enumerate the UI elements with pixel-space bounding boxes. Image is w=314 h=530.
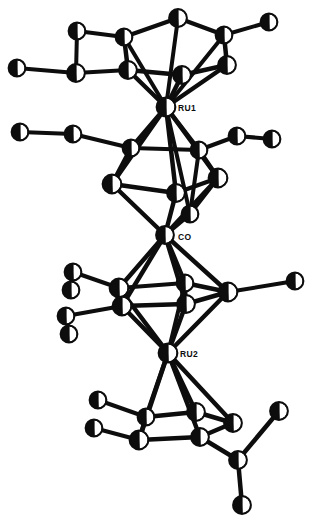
atom <box>182 206 199 223</box>
atom <box>224 414 242 432</box>
atom <box>12 124 29 141</box>
atom <box>103 175 122 194</box>
metal-atom <box>156 226 174 244</box>
atom <box>9 60 26 77</box>
atom <box>90 392 107 409</box>
atom <box>209 169 228 188</box>
atom <box>219 283 238 302</box>
atom <box>191 428 209 446</box>
atom <box>65 126 82 143</box>
atom <box>264 131 281 148</box>
atom <box>216 27 233 44</box>
atom <box>58 308 75 325</box>
atom <box>229 128 246 145</box>
atom <box>167 184 185 202</box>
atom <box>177 275 194 292</box>
ortep-diagram-canvas: RU1CORU2 <box>0 0 314 530</box>
atom <box>61 326 78 343</box>
atom <box>130 431 149 450</box>
atom <box>191 142 208 159</box>
atom <box>169 9 187 27</box>
metal-atom <box>157 98 176 117</box>
atom <box>65 264 82 281</box>
atom <box>177 295 195 313</box>
atom <box>287 273 304 290</box>
atom <box>69 23 86 40</box>
atom <box>218 56 236 74</box>
atom <box>113 297 132 316</box>
label-ru2: RU2 <box>180 349 198 359</box>
molecular-structure-figure: RU1CORU2 <box>0 0 314 530</box>
atom <box>233 496 251 514</box>
atom <box>229 451 247 469</box>
label-ru1: RU1 <box>178 103 196 113</box>
label-co: CO <box>178 232 192 242</box>
atom <box>261 14 278 31</box>
atom <box>173 66 191 84</box>
figure-background <box>0 0 314 530</box>
bond <box>131 148 199 150</box>
atom <box>67 64 85 82</box>
atom <box>123 140 140 157</box>
atom <box>116 29 133 46</box>
atom <box>270 402 288 420</box>
atom <box>86 420 103 437</box>
atom <box>119 61 137 79</box>
atom <box>110 279 129 298</box>
atom <box>63 282 80 299</box>
atom <box>187 403 205 421</box>
atom <box>138 409 155 426</box>
metal-atom <box>159 344 178 363</box>
